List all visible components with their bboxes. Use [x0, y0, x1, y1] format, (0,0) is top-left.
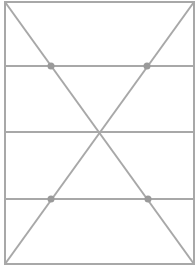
diagram-lines [5, 2, 194, 264]
intersection-dot-1 [48, 63, 55, 70]
intersection-dot-4 [145, 196, 152, 203]
intersection-dot-2 [144, 63, 151, 70]
geometry-diagram [0, 0, 196, 272]
intersection-dot-3 [48, 196, 55, 203]
